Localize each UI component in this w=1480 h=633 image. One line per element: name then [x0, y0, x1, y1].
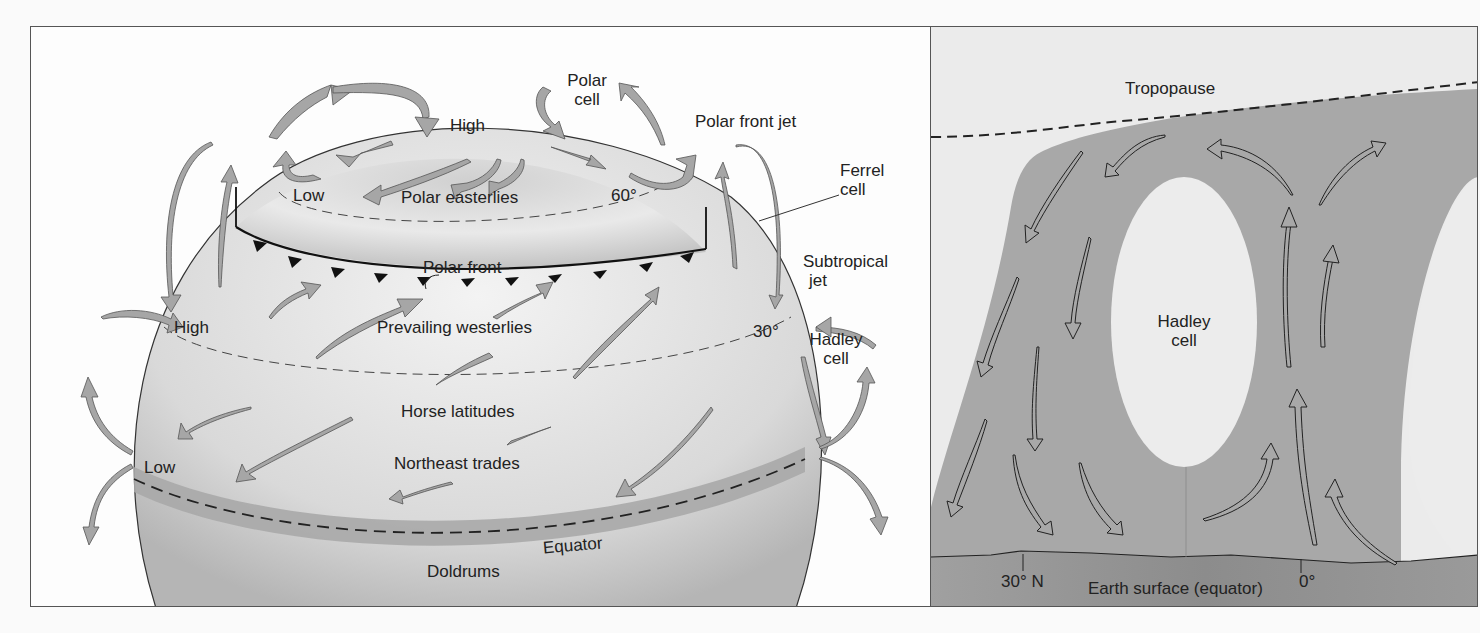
label-high-30: High [174, 319, 209, 338]
label-polar-cell: Polar cell [552, 72, 622, 109]
label-doldrums: Doldrums [427, 563, 500, 582]
label-ferrel-cell: Ferrel cell [840, 162, 884, 199]
label-earth-surface: Earth surface (equator) [1088, 580, 1263, 599]
label-polar-front: Polar front [423, 259, 501, 278]
label-polar-front-jet: Polar front jet [695, 113, 796, 132]
label-low-equator: Low [144, 459, 175, 478]
label-hadley-cell-section: Hadley cell [1149, 313, 1219, 350]
label-horse-latitudes: Horse latitudes [401, 403, 514, 422]
label-prevailing-westerlies: Prevailing westerlies [377, 319, 532, 338]
label-northeast-trades: Northeast trades [394, 455, 520, 474]
label-lat-30: 30° [753, 323, 779, 342]
label-tropopause: Tropopause [1125, 80, 1215, 99]
label-high-pole: High [450, 117, 485, 136]
label-hadley-cell: Hadley cell [801, 331, 871, 368]
globe-circulation-panel: High Polar cell Polar front jet Ferrel c… [30, 26, 931, 607]
hadley-cross-section-panel: Tropopause Hadley cell 30° N Earth surfa… [930, 26, 1478, 607]
label-30n: 30° N [1001, 573, 1044, 592]
label-subtropical-jet: Subtropical jet [803, 253, 888, 290]
label-low-60: Low [293, 187, 324, 206]
label-polar-easterlies: Polar easterlies [401, 189, 518, 208]
label-lat-60: 60° [611, 187, 637, 206]
label-lat-0: 0° [1299, 573, 1315, 592]
